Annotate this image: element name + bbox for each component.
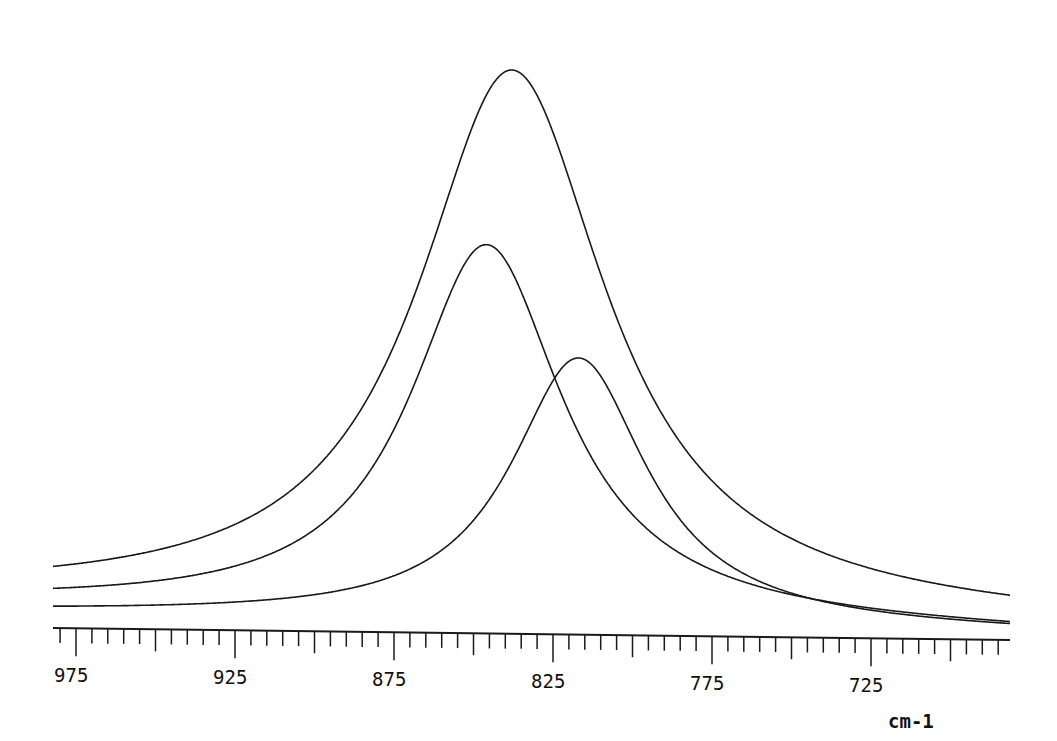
x-axis-line (53, 628, 1010, 640)
x-axis-tick-labels: 975925875825775725 (54, 664, 883, 696)
x-tick-label: 975 (54, 664, 88, 686)
x-tick-label: 775 (690, 672, 724, 694)
spectrum-curves (53, 70, 1010, 624)
x-axis (53, 628, 1010, 666)
spectrum-chart: 975925875825775725 cm-1 (0, 0, 1057, 741)
spectrum-curve-3 (53, 358, 1010, 624)
spectrum-curve-1 (53, 70, 1010, 595)
x-tick-label: 925 (213, 666, 247, 688)
x-tick-label: 875 (372, 668, 406, 690)
x-axis-unit-label: cm-1 (888, 710, 934, 732)
x-tick-label: 825 (531, 670, 565, 692)
spectrum-curve-2 (53, 245, 1010, 622)
x-tick-label: 725 (849, 674, 883, 696)
